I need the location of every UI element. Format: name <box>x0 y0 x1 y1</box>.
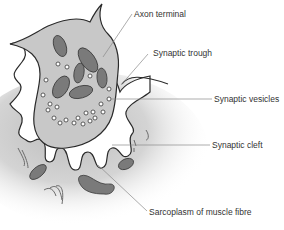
label-synaptic-vesicles: Synaptic vesicles <box>214 95 279 104</box>
label-sarcoplasm: Sarcoplasm of muscle fibre <box>149 208 252 217</box>
label-synaptic-trough: Synaptic trough <box>153 49 212 58</box>
label-axon-terminal: Axon terminal <box>134 10 186 19</box>
neuromuscular-junction-diagram: Axon terminal Synaptic trough Synaptic v… <box>0 0 284 230</box>
label-synaptic-cleft: Synaptic cleft <box>212 141 263 150</box>
diagram-illustration <box>0 0 284 230</box>
